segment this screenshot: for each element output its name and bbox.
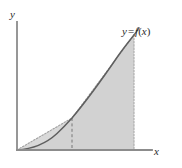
- curve-label-equals: =: [127, 25, 135, 37]
- curve-label-close-paren: ): [147, 25, 151, 37]
- x-axis-label: x: [154, 146, 159, 157]
- y-axis-label: y: [10, 9, 15, 20]
- area-under-curve-chart: [0, 0, 182, 168]
- curve-equation-label: y=f(x): [122, 26, 150, 37]
- shaded-area-under-curve: [17, 35, 134, 150]
- figure-container: y x y=f(x): [0, 0, 182, 168]
